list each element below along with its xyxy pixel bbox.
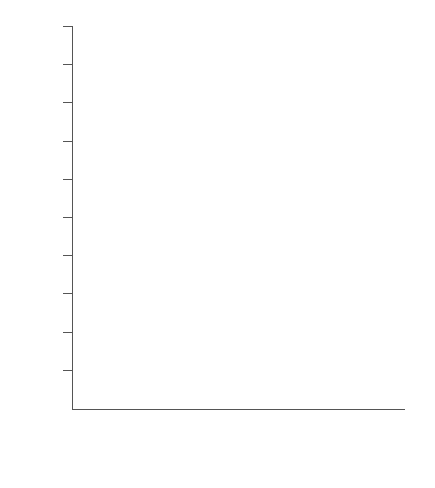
- y-tick-70: [63, 141, 73, 142]
- trend-line: [73, 27, 405, 409]
- y-tick-90: [63, 64, 73, 65]
- plot-inner: [73, 27, 405, 409]
- y-tick-20: [63, 332, 73, 333]
- plot-area: [72, 27, 405, 410]
- y-tick-30: [63, 293, 73, 294]
- y-tick-40: [63, 255, 73, 256]
- y-tick-10: [63, 370, 73, 371]
- y-tick-60: [63, 179, 73, 180]
- y-tick-80: [63, 102, 73, 103]
- y-tick-100: [63, 26, 73, 27]
- y-tick-50: [63, 217, 73, 218]
- chart-root: [0, 0, 435, 488]
